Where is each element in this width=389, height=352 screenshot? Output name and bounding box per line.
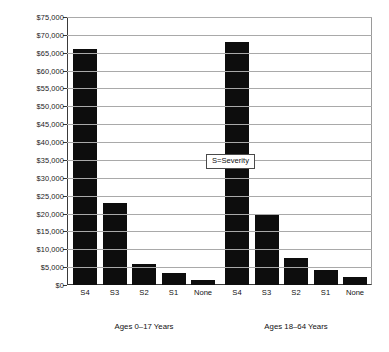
x-axis-group-label: Ages 0–17 Years (115, 322, 174, 331)
gridline (67, 35, 372, 36)
x-axis-tick-label: None (194, 288, 212, 297)
y-axis-tick-label: $0 (0, 281, 64, 290)
x-axis-tick-label: S4 (80, 288, 89, 297)
x-axis-group-label: Ages 18–64 Years (264, 322, 327, 331)
gridline (67, 214, 372, 215)
x-axis-group-labels: Ages 0–17 YearsAges 18–64 Years (67, 322, 372, 336)
y-axis-tick-label: $5,000 (0, 263, 64, 272)
x-axis-labels: S4S3S2S1NoneS4S3S2S1None (67, 288, 372, 302)
severity-legend: S=Severity (206, 154, 255, 169)
x-axis-tick-label: S2 (291, 288, 300, 297)
y-axis-tick-label: $60,000 (0, 66, 64, 75)
severity-legend-label: S=Severity (212, 156, 249, 165)
gridline (67, 71, 372, 72)
bar (343, 277, 367, 285)
x-axis-tick-label: S1 (169, 288, 178, 297)
x-axis-tick-label: S2 (139, 288, 148, 297)
y-axis-tick-label: $55,000 (0, 84, 64, 93)
y-axis-tick-label: $70,000 (0, 30, 64, 39)
gridline (67, 88, 372, 89)
x-axis-tick-label: S4 (232, 288, 241, 297)
x-axis-tick-label: S3 (262, 288, 271, 297)
bar (191, 280, 215, 285)
bars-layer (67, 17, 372, 285)
y-axis-tick-label: $35,000 (0, 155, 64, 164)
y-axis-tick-label: $75,000 (0, 13, 64, 22)
y-axis-tick-label: $30,000 (0, 173, 64, 182)
gridline (67, 53, 372, 54)
bar (162, 273, 186, 285)
y-axis-tick-label: $45,000 (0, 120, 64, 129)
gridline (67, 231, 372, 232)
gridline (67, 178, 372, 179)
bar (103, 203, 127, 285)
y-axis-tick-label: $10,000 (0, 245, 64, 254)
x-axis-tick-label: S1 (321, 288, 330, 297)
bar (284, 258, 308, 285)
gridline (67, 142, 372, 143)
gridline (67, 196, 372, 197)
y-axis-tick-label: $20,000 (0, 209, 64, 218)
x-axis-tick-label: S3 (110, 288, 119, 297)
y-axis-tick-label: $15,000 (0, 227, 64, 236)
plot-wrap (67, 17, 372, 285)
y-axis-tick-label: $25,000 (0, 191, 64, 200)
gridline (67, 106, 372, 107)
gridline (67, 267, 372, 268)
bar-chart-figure: $0$5,000$10,000$15,000$20,000$25,000$30,… (0, 0, 389, 352)
gridline (67, 124, 372, 125)
gridline (67, 249, 372, 250)
y-axis-tick-label: $65,000 (0, 48, 64, 57)
gridline (67, 17, 372, 18)
y-axis-tick-label: $50,000 (0, 102, 64, 111)
y-axis-tick-label: $40,000 (0, 138, 64, 147)
x-axis-tick-label: None (346, 288, 364, 297)
bar (314, 270, 338, 285)
